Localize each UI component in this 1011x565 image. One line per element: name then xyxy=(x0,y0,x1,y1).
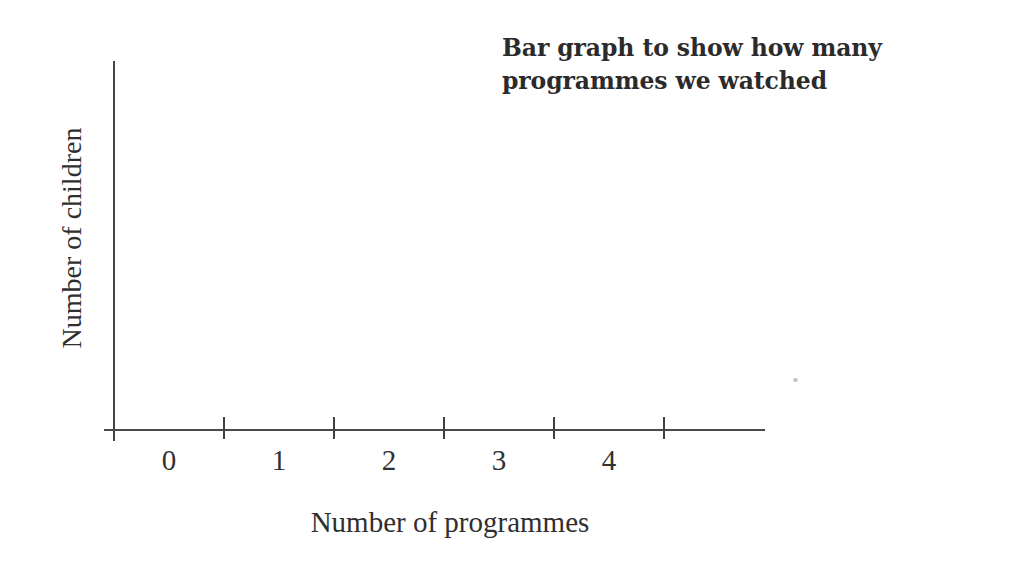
x-tick-label-1: 1 xyxy=(249,443,309,477)
x-axis-tick xyxy=(223,417,225,439)
x-axis-label: Number of programmes xyxy=(114,504,786,540)
x-axis-tick xyxy=(443,417,445,439)
x-tick-label-2: 2 xyxy=(359,443,419,477)
x-axis-tick xyxy=(333,417,335,439)
y-axis-line xyxy=(113,61,115,441)
x-axis-tick xyxy=(553,417,555,439)
x-axis-line xyxy=(104,429,765,431)
x-axis-tick xyxy=(663,417,665,439)
bar-graph-worksheet: Bar graph to show how many programmes we… xyxy=(0,0,1011,565)
scan-artifact-speck xyxy=(793,378,798,382)
x-tick-label-3: 3 xyxy=(469,443,529,477)
plot-area[interactable] xyxy=(115,61,765,429)
y-axis-label: Number of children xyxy=(54,73,90,403)
x-tick-label-0: 0 xyxy=(139,443,199,477)
x-tick-label-4: 4 xyxy=(579,443,639,477)
